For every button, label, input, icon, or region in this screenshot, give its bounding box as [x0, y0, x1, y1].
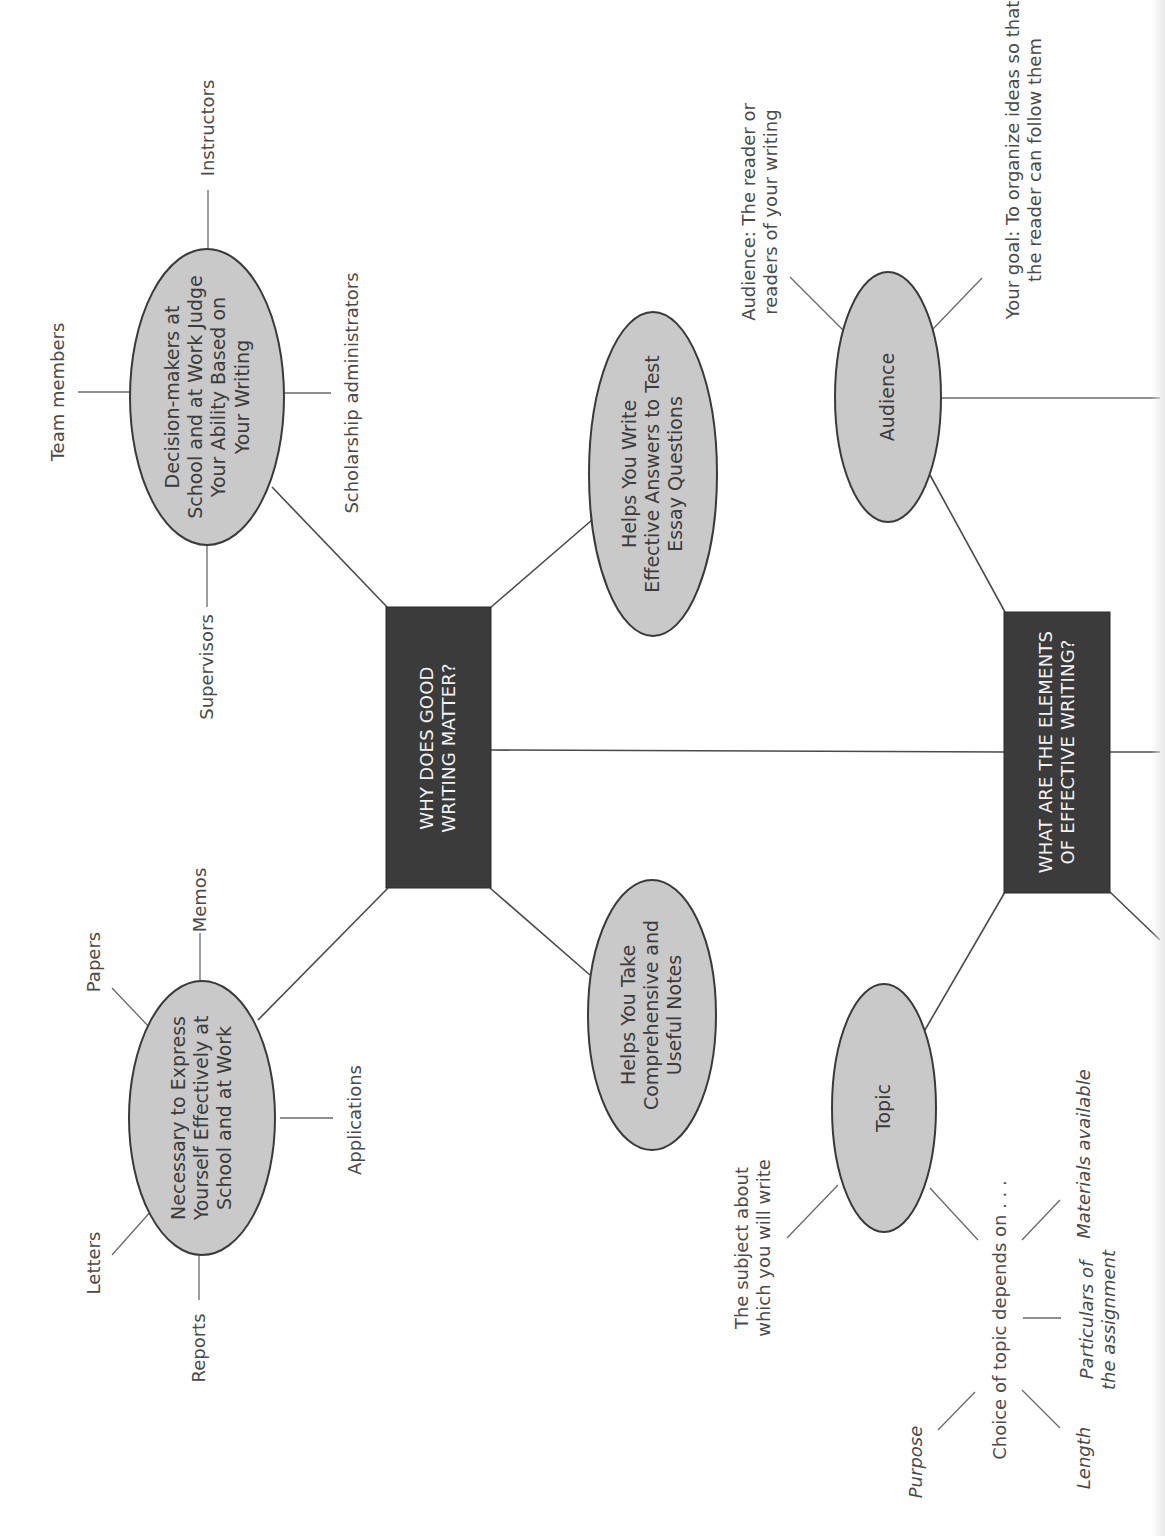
- notes-line-1: Helps You Take: [617, 920, 640, 1110]
- topic-label: Topic: [872, 1084, 895, 1132]
- audience-goal-line-2: the reader can follow them: [1024, 1, 1046, 320]
- topic-subject-note: The subject about which you will write: [731, 1159, 775, 1337]
- notes-label: Helps You Take Comprehensive and Useful …: [617, 920, 687, 1110]
- essay-line-1: Helps You Write: [618, 355, 641, 592]
- connector-topic-choice: [930, 1188, 978, 1240]
- factor-particulars-line-1: Particulars of: [1076, 1250, 1098, 1390]
- audience-goal-line-1: Your goal: To organize ideas so that: [1002, 1, 1024, 320]
- connector-papers: [112, 988, 152, 1030]
- leaf-supervisors: Supervisors: [196, 614, 218, 720]
- topic-subject-line-2: which you will write: [753, 1159, 775, 1337]
- spine-connector: [490, 750, 1005, 752]
- connector-audience-goal: [932, 278, 982, 330]
- leaf-instructors: Instructors: [197, 80, 219, 177]
- factor-purpose: Purpose: [905, 1426, 927, 1499]
- why-title-line-1: WHY DOES GOOD: [416, 663, 438, 833]
- leaf-team-members: Team members: [47, 323, 69, 462]
- decision-line-4: Your Writing: [230, 275, 253, 519]
- necessary-line-2: Yourself Effectively at: [190, 1016, 213, 1221]
- choice-of-topic-label: Choice of topic depends on . . .: [989, 1180, 1011, 1460]
- connector-audience-definition: [790, 277, 843, 330]
- essay-answers-label: Helps You Write Effective Answers to Tes…: [618, 355, 688, 592]
- mind-map: WHY DOES GOOD WRITING MATTER? WHAT ARE T…: [0, 0, 1165, 1536]
- decision-line-1: Decision-makers at: [161, 275, 184, 519]
- factor-length: Length: [1073, 1427, 1095, 1489]
- factor-materials-available: Materials available: [1073, 1069, 1095, 1238]
- necessary-line-3: School and at Work: [214, 1016, 237, 1221]
- factor-particulars: Particulars of the assignment: [1076, 1250, 1120, 1390]
- essay-line-3: Essay Questions: [665, 355, 688, 592]
- connector-topic-subject: [787, 1185, 838, 1238]
- page-edge-shadow: [1151, 0, 1165, 1536]
- audience-label: Audience: [876, 353, 899, 441]
- connector-purpose: [938, 1392, 975, 1430]
- connector-elements-audience: [930, 475, 1005, 612]
- decision-line-2: School and at Work Judge: [184, 275, 207, 519]
- necessary-label: Necessary to Express Yourself Effectivel…: [167, 1016, 237, 1221]
- leaf-papers: Papers: [83, 932, 105, 992]
- leaf-applications: Applications: [344, 1065, 366, 1175]
- notes-line-3: Useful Notes: [664, 920, 687, 1110]
- factor-particulars-line-2: the assignment: [1098, 1250, 1120, 1390]
- connector-why-notes: [490, 888, 590, 975]
- why-good-writing-title: WHY DOES GOOD WRITING MATTER?: [416, 663, 460, 833]
- audience-definition-note: Audience: The reader or readers of your …: [738, 103, 782, 321]
- connector-why-necessary: [258, 888, 388, 1020]
- connector-materials: [1022, 1200, 1060, 1240]
- connector-why-essay: [490, 520, 592, 608]
- topic-subject-line-1: The subject about: [731, 1159, 753, 1337]
- why-title-line-2: WRITING MATTER?: [438, 663, 460, 833]
- necessary-line-1: Necessary to Express: [167, 1016, 190, 1221]
- audience-definition-line-2: readers of your writing: [760, 103, 782, 321]
- connector-letters: [112, 1210, 152, 1255]
- audience-goal-note: Your goal: To organize ideas so that the…: [1002, 1, 1046, 320]
- elements-title-line-1: WHAT ARE THE ELEMENTS: [1035, 631, 1057, 873]
- leaf-letters: Letters: [83, 1232, 105, 1295]
- connector-length: [1022, 1390, 1060, 1428]
- connector-why-decision: [272, 487, 388, 608]
- connector-elements-topic: [922, 892, 1005, 1035]
- leaf-reports: Reports: [188, 1313, 210, 1382]
- elements-title-line-2: OF EFFECTIVE WRITING?: [1057, 631, 1079, 873]
- leaf-memos: Memos: [189, 868, 211, 933]
- essay-line-2: Effective Answers to Test: [641, 355, 664, 592]
- audience-definition-line-1: Audience: The reader or: [738, 103, 760, 321]
- notes-line-2: Comprehensive and: [640, 920, 663, 1110]
- elements-title: WHAT ARE THE ELEMENTS OF EFFECTIVE WRITI…: [1035, 631, 1079, 873]
- leaf-scholarship-administrators: Scholarship administrators: [341, 272, 363, 513]
- decision-line-3: Your Ability Based on: [207, 275, 230, 519]
- decision-makers-label: Decision-makers at School and at Work Ju…: [161, 275, 254, 519]
